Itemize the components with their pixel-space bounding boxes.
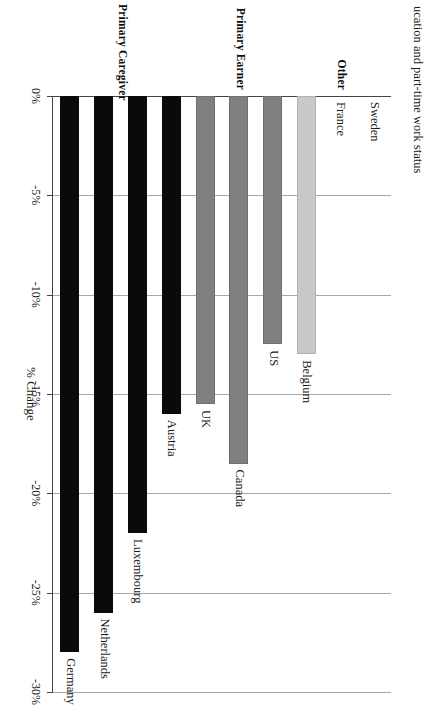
bar-category-label: Germany [62,658,77,705]
bar-category-label: Belgium [299,360,314,403]
bar-category-label: Netherlands [96,619,111,679]
axis-tick [47,295,53,296]
group-label: Other [336,4,348,90]
bar-category-label: Austria [164,420,179,457]
axis-tick [47,593,53,594]
group-label: Primary Earner [235,4,247,90]
bar [162,96,181,414]
page-running-text: ucation and part-time work status [410,6,425,173]
axis-tick [47,394,53,395]
group-label: Primary Caregiver [117,4,129,90]
axis-title: % Change [23,96,39,692]
bar-category-label: Sweden [367,102,382,142]
bar [229,96,248,464]
axis-tick [47,96,53,97]
plot-area: 0%-5%-10%-15%-20%-25%-30% GermanyNetherl… [53,96,391,692]
bar [297,96,316,354]
rotated-page-wrapper: ucation and part-time work status 0%-5%-… [0,0,431,721]
bar [196,96,215,404]
bar [263,96,282,344]
bar-category-label: US [265,350,280,366]
axis-tick [47,195,53,196]
gridline [53,692,391,693]
bar-category-label: France [333,102,348,136]
bar-category-label: Luxembourg [130,539,145,603]
axis-tick [47,493,53,494]
figure: ucation and part-time work status 0%-5%-… [0,0,431,721]
axis-tick [47,692,53,693]
bar [128,96,147,533]
bar [60,96,79,652]
bar [94,96,113,613]
bar-category-label: UK [198,410,213,428]
bar-category-label: Canada [231,470,246,507]
